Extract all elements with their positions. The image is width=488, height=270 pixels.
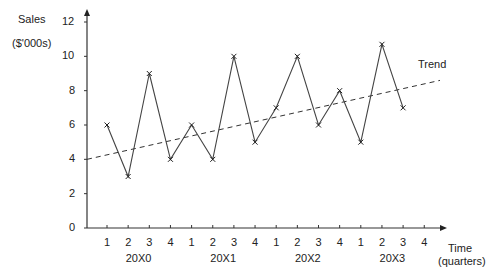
- y-tick-label: 2: [69, 187, 75, 199]
- x-tick-label: 2: [210, 236, 216, 248]
- x-axis-arrow-icon: [440, 225, 447, 231]
- year-label: 20X3: [380, 252, 406, 264]
- y-tick-label: 12: [62, 15, 74, 27]
- year-label: 20X1: [210, 252, 236, 264]
- x-tick-label: 4: [167, 236, 173, 248]
- x-tick-label: 2: [379, 236, 385, 248]
- x-tick-label: 1: [104, 236, 110, 248]
- data-point-x-icon: [401, 105, 406, 110]
- x-tick-label: 3: [400, 236, 406, 248]
- data-point-x-icon: [337, 88, 342, 93]
- year-label: 20X2: [295, 252, 321, 264]
- x-tick-label: 1: [189, 236, 195, 248]
- sales-line: [107, 44, 403, 176]
- y-tick-label: 6: [69, 118, 75, 130]
- x-tick-label: 1: [358, 236, 364, 248]
- x-tick-label: 4: [252, 236, 258, 248]
- year-label: 20X0: [126, 252, 152, 264]
- y-tick-label: 4: [69, 152, 75, 164]
- x-tick-label: 2: [294, 236, 300, 248]
- data-point-x-icon: [274, 105, 279, 110]
- x-tick-label: 3: [316, 236, 322, 248]
- x-tick-label: 3: [146, 236, 152, 248]
- data-point-x-icon: [105, 123, 110, 128]
- x-tick-label: 3: [231, 236, 237, 248]
- y-axis-arrow-icon: [84, 9, 90, 16]
- x-tick-label: 2: [125, 236, 131, 248]
- x-tick-label: 4: [421, 236, 427, 248]
- y-tick-label: 10: [62, 49, 74, 61]
- x-tick-label: 1: [273, 236, 279, 248]
- x-tick-label: 4: [337, 236, 343, 248]
- y-tick-label: 0: [69, 221, 75, 233]
- y-tick-label: 8: [69, 84, 75, 96]
- data-point-x-icon: [189, 123, 194, 128]
